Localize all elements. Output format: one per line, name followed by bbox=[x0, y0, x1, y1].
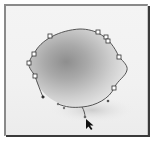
lemon-image bbox=[29, 29, 127, 107]
direction-handle[interactable] bbox=[57, 103, 59, 105]
anchor-point[interactable] bbox=[96, 30, 100, 34]
anchor-point[interactable] bbox=[32, 52, 36, 56]
anchor-point[interactable] bbox=[104, 35, 108, 39]
anchor-point[interactable] bbox=[33, 74, 37, 78]
direction-handle[interactable] bbox=[107, 100, 110, 103]
anchor-point[interactable] bbox=[117, 55, 121, 59]
canvas[interactable] bbox=[0, 0, 153, 144]
anchor-point[interactable] bbox=[106, 39, 110, 43]
direction-handle-icon[interactable] bbox=[42, 96, 45, 99]
anchor-point[interactable] bbox=[48, 34, 52, 38]
direction-handle[interactable] bbox=[63, 107, 65, 109]
anchor-point[interactable] bbox=[112, 86, 116, 90]
anchor-point[interactable] bbox=[27, 61, 31, 65]
direction-handle[interactable] bbox=[84, 116, 87, 119]
